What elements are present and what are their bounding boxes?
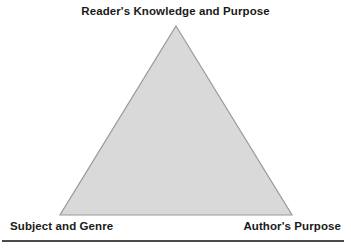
bottom-divider-rule (2, 240, 344, 242)
triangle-diagram (0, 0, 351, 250)
triangle-shape (60, 26, 292, 215)
reading-triangle-figure: Reader's Knowledge and Purpose Subject a… (0, 0, 351, 250)
bottom-right-label-authors-purpose: Author's Purpose (243, 221, 341, 233)
bottom-left-label-subject-and-genre: Subject and Genre (10, 221, 113, 233)
